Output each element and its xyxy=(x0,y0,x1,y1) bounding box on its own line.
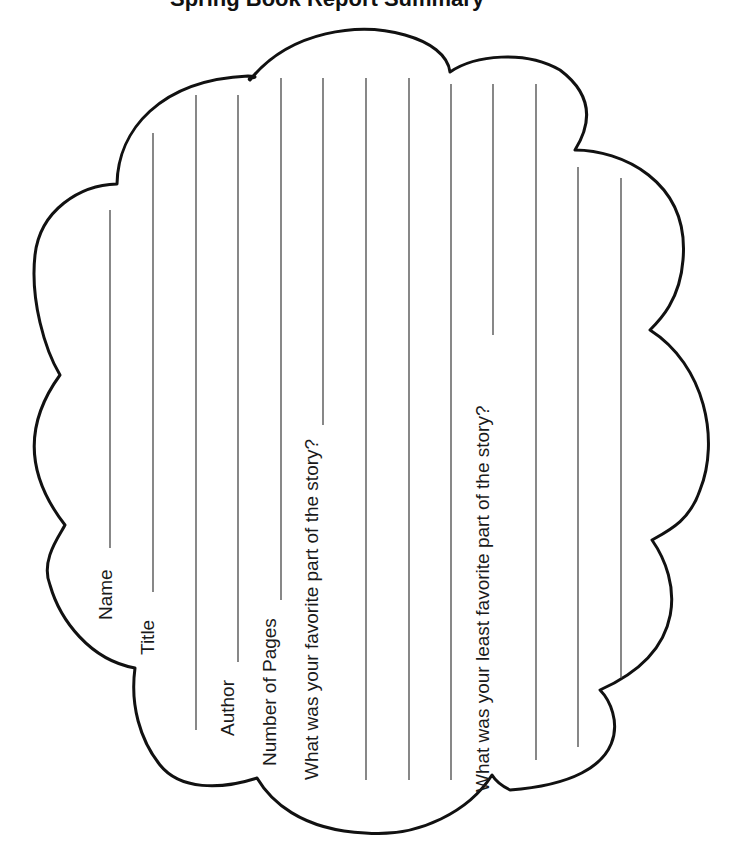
label-name: Name xyxy=(96,569,115,620)
cloud-outline xyxy=(0,0,745,854)
label-number-of-pages: Number of Pages xyxy=(260,618,279,766)
label-favorite-part: What was your favorite part of the story… xyxy=(302,439,321,780)
label-title: Title xyxy=(138,620,157,655)
label-author: Author xyxy=(218,680,237,736)
worksheet-page: Spring Book Report Summary Name Title Au… xyxy=(0,0,745,854)
cloud-border xyxy=(34,29,708,833)
writing-lines xyxy=(110,78,621,780)
label-least-favorite-part: What was your least favorite part of the… xyxy=(473,405,492,792)
